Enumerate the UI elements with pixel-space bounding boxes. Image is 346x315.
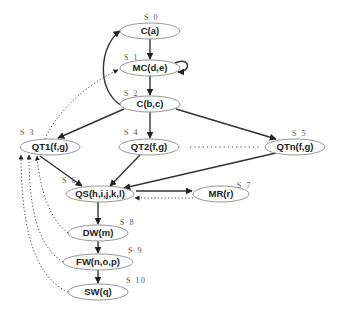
state-diagram: C(a)S 0MC(d,e)S 1C(b,c)S 2QT1(f,g)S 3QT2… bbox=[0, 0, 346, 315]
state-number-label: S 7 bbox=[237, 181, 252, 190]
edge-n9-n3 bbox=[29, 155, 63, 262]
state-node-n8: DW(m)S 8 bbox=[68, 218, 135, 241]
state-number-label: S 6 bbox=[62, 176, 77, 185]
edge-n2-n5 bbox=[176, 109, 276, 139]
node-label: FW(n,o,p) bbox=[76, 256, 120, 267]
edge-n5-n6 bbox=[124, 153, 276, 188]
state-number-label: S 3 bbox=[20, 128, 35, 137]
state-number-label: S 9 bbox=[128, 246, 143, 255]
node-label: MC(d,e) bbox=[133, 62, 168, 73]
state-number-label: S 1 bbox=[124, 53, 139, 62]
state-number-label: S 0 bbox=[144, 13, 159, 22]
state-number-label: S 5 bbox=[292, 129, 307, 138]
state-number-label: S 2 bbox=[124, 89, 139, 98]
node-label: QT2(f,g) bbox=[131, 141, 167, 152]
node-label: DW(m) bbox=[83, 227, 114, 238]
state-node-n6: QS(h,i,j,k,l)S 6 bbox=[62, 176, 134, 202]
node-label: QT1(f,g) bbox=[32, 141, 68, 152]
state-node-n4: QT2(f,g)S 4 bbox=[119, 128, 179, 155]
state-node-n10: SW(q)S 10 bbox=[68, 276, 146, 300]
node-label: C(b,c) bbox=[137, 98, 164, 109]
edge-n2-n3 bbox=[58, 109, 124, 138]
state-node-n5: QTn(f,g)S 5 bbox=[265, 129, 325, 155]
node-label: QTn(f,g) bbox=[277, 141, 314, 152]
state-number-label: S 4 bbox=[124, 128, 139, 137]
node-label: QS(h,i,j,k,l) bbox=[75, 188, 125, 199]
state-node-n0: C(a)S 0 bbox=[120, 13, 180, 39]
nodes-layer: C(a)S 0MC(d,e)S 1C(b,c)S 2QT1(f,g)S 3QT2… bbox=[20, 13, 325, 300]
edge-n3-n1 bbox=[45, 70, 118, 139]
state-number-label: S 8 bbox=[120, 218, 135, 227]
node-label: C(a) bbox=[141, 25, 159, 36]
edge-n8-n3 bbox=[37, 156, 68, 233]
edge-n10-n3 bbox=[21, 155, 68, 292]
state-node-n9: FW(n,o,p)S 9 bbox=[63, 246, 143, 270]
state-number-label: S 10 bbox=[126, 276, 146, 285]
state-node-n7: MR(r)S 7 bbox=[193, 181, 252, 202]
node-label: SW(q) bbox=[84, 286, 111, 297]
node-label: MR(r) bbox=[209, 188, 234, 199]
edge-n4-n6 bbox=[110, 155, 140, 186]
edge-n2-n0 bbox=[103, 31, 122, 106]
